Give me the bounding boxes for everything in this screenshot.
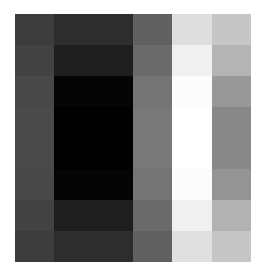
heatmap-cell xyxy=(94,76,133,107)
heatmap-cell xyxy=(212,45,251,76)
heatmap-cell xyxy=(54,76,93,107)
heatmap-cell xyxy=(15,231,54,262)
heatmap-cell xyxy=(54,231,93,262)
heatmap-cell xyxy=(15,107,54,138)
heatmap-cell xyxy=(54,200,93,231)
heatmap-cell xyxy=(54,14,93,45)
heatmap-cell xyxy=(15,45,54,76)
heatmap-cell xyxy=(212,107,251,138)
heatmap-cell xyxy=(133,200,172,231)
heatmap-cell xyxy=(94,138,133,169)
heatmap-cell xyxy=(94,231,133,262)
heatmap-grid xyxy=(15,14,251,262)
heatmap-cell xyxy=(172,200,211,231)
heatmap-cell xyxy=(172,45,211,76)
heatmap-cell xyxy=(133,138,172,169)
heatmap-cell xyxy=(212,231,251,262)
heatmap-cell xyxy=(212,169,251,200)
heatmap-cell xyxy=(15,76,54,107)
heatmap-cell xyxy=(172,14,211,45)
heatmap-cell xyxy=(15,169,54,200)
heatmap-cell xyxy=(133,107,172,138)
heatmap-cell xyxy=(94,200,133,231)
heatmap-cell xyxy=(172,138,211,169)
heatmap-cell xyxy=(54,107,93,138)
heatmap-cell xyxy=(172,76,211,107)
figure-canvas xyxy=(0,0,266,276)
heatmap-cell xyxy=(15,200,54,231)
heatmap-cell xyxy=(94,169,133,200)
heatmap-cell xyxy=(172,107,211,138)
heatmap-cell xyxy=(133,76,172,107)
heatmap-cell xyxy=(94,107,133,138)
heatmap-cell xyxy=(133,231,172,262)
heatmap-cell xyxy=(212,76,251,107)
heatmap-cell xyxy=(172,169,211,200)
heatmap-cell xyxy=(212,138,251,169)
heatmap-cell xyxy=(212,14,251,45)
heatmap-cell xyxy=(54,169,93,200)
heatmap-cell xyxy=(54,45,93,76)
heatmap-cell xyxy=(15,138,54,169)
heatmap-cell xyxy=(94,14,133,45)
heatmap-cell xyxy=(15,14,54,45)
heatmap-cell xyxy=(212,200,251,231)
heatmap-cell xyxy=(54,138,93,169)
heatmap-cell xyxy=(133,14,172,45)
heatmap-cell xyxy=(133,169,172,200)
heatmap-cell xyxy=(172,231,211,262)
heatmap-cell xyxy=(94,45,133,76)
heatmap-cell xyxy=(133,45,172,76)
